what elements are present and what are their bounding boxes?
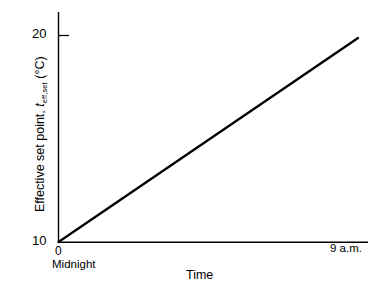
x-axis-tick-sublabel-midnight: Midnight [52, 259, 95, 271]
y-axis-title-prefix: Effective set point, [33, 107, 47, 212]
chart-figure: 20 10 0 Midnight 9 a.m. Time Effective s… [0, 0, 391, 289]
y-axis-title: Effective set point, teff,set (°C) [34, 34, 47, 234]
y-axis-title-units: (°C) [33, 56, 47, 82]
x-axis-tick-label-origin: 0 [55, 245, 62, 257]
data-line-setpoint-ramp [59, 38, 359, 242]
y-axis-tick-label-bottom: 10 [32, 234, 46, 247]
y-axis-title-symbol: t [33, 103, 47, 106]
x-axis-tick-label-end: 9 a.m. [330, 243, 362, 255]
x-axis-title: Time [186, 269, 213, 282]
y-axis-title-subscript: eff,set [39, 82, 48, 103]
